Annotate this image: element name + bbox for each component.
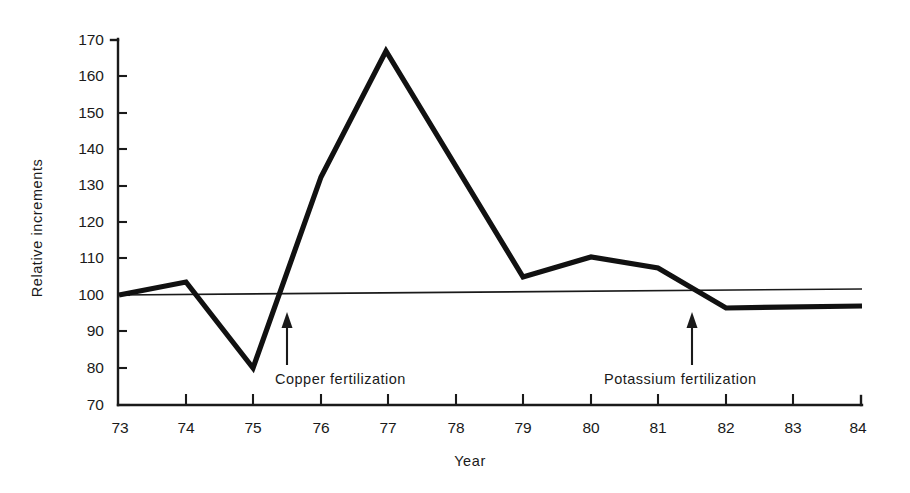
x-tick-label: 83 [784,419,801,436]
y-tick-label: 120 [78,213,104,230]
x-tick-label: 75 [244,419,261,436]
y-axis-title: Relative increments [29,159,45,298]
annotation-copper-fertilization: Copper fertilization [275,312,406,387]
x-axis-title: Year [454,453,486,469]
y-tick-label: 170 [78,31,104,48]
x-tick-label: 77 [379,419,396,436]
x-tick-label: 81 [649,419,666,436]
x-axis-tick-labels: 73 74 75 76 77 78 79 80 81 82 83 84 [111,419,867,436]
potassium-fertilization-label: Potassium fertilization [604,371,757,387]
y-tick-label: 90 [87,322,105,339]
x-tick-label: 73 [111,419,128,436]
x-tick-label: 78 [447,419,464,436]
x-tick-label: 74 [177,419,195,436]
y-tick-label: 70 [87,396,105,413]
line-chart-svg: Relative increments 170 160 150 140 130 … [0,0,910,493]
y-tick-label: 110 [79,249,104,266]
x-axis-ticks [186,394,793,405]
y-tick-label: 100 [78,286,104,303]
x-tick-label: 84 [849,419,867,436]
y-tick-label: 150 [78,104,104,121]
annotation-potassium-fertilization: Potassium fertilization [604,312,757,387]
x-tick-label: 79 [514,419,531,436]
data-series-line [119,51,862,368]
copper-arrow-head [282,312,293,328]
y-tick-label: 160 [78,67,104,84]
x-tick-label: 82 [717,419,734,436]
x-tick-label: 76 [312,419,329,436]
y-axis-tick-labels: 170 160 150 140 130 120 110 100 90 80 70 [78,31,104,413]
y-axis-ticks [118,76,130,405]
y-tick-label: 140 [78,140,104,157]
copper-fertilization-label: Copper fertilization [275,371,406,387]
potassium-arrow-head [687,312,698,328]
y-tick-label: 80 [87,359,105,376]
x-tick-label: 80 [582,419,600,436]
y-tick-label: 130 [78,176,104,193]
reference-line-100 [118,289,862,295]
chart-figure: Relative increments 170 160 150 140 130 … [0,0,910,493]
